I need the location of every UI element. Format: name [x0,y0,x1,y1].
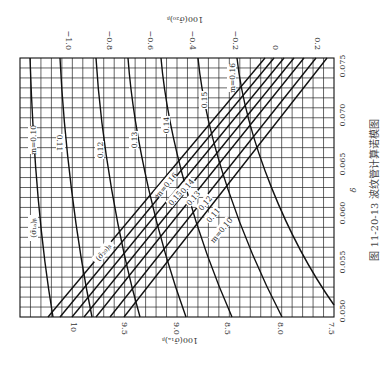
top-axis-title: 100(σ̄₂₀)ᵦ [167,15,203,24]
top-tick: 0 [271,45,280,50]
delta-tick: 0.050 [338,300,347,323]
grid [20,58,334,317]
bottom-axis-title: 100(σ̄₁ₐ)ᵦ [162,336,198,345]
curve-label: 0.15 [200,91,209,108]
bottom-tick: 8.0 [276,322,285,335]
delta-tick: 0.060 [338,202,347,225]
bottom-tick: 10 [69,322,78,332]
curve-label: m=0.16 [228,63,237,93]
delta-axis-title: δ [349,187,358,192]
bottom-tick: 7.5 [327,322,336,335]
bottom-tick: 9.5 [120,322,129,335]
delta-axis-ticks: 0.050 0.055 0.060 0.065 0.070 0.075 [338,55,347,323]
delta-tick: 0.055 [338,251,347,274]
figure-caption: 图 11-20-13 波纹管计算诺模图 [368,119,380,260]
top-tick: −0.4 [188,31,197,50]
bottom-axis-ticks: 10 9.5 9.0 8.5 8.0 7.5 [69,322,336,335]
curve-label: 0.12 [96,141,105,158]
family1-labels: m=0.10 0.11 0.12 0.13 0.14 0.15 m=0.16 (… [28,63,237,241]
curve-m016-a [237,58,334,305]
delta-tick: 0.070 [338,104,347,127]
nomogram: −1.0 −0.8 −0.6 −0.4 −0.2 0 0.2 100(σ̄₂₀)… [0,0,387,365]
bottom-tick: 8.5 [223,322,232,335]
bottom-tick: 9.0 [172,322,181,335]
top-tick: −0.6 [146,31,155,50]
top-tick: −1.0 [64,31,73,50]
family1-label: (σ̄₁ₐ)ᵦ [29,218,38,238]
top-tick: −0.2 [231,31,240,50]
delta-tick: 0.065 [338,153,347,176]
curve-label: m=0.10 [29,125,38,155]
top-tick: −0.8 [105,31,114,50]
delta-tick: 0.075 [338,55,347,78]
curve-label: 0.14 [162,116,171,133]
top-tick: 0.2 [313,37,322,50]
curve-label: 0.13 [130,131,139,148]
curve-label: 0.11 [55,135,64,152]
top-axis-ticks: −1.0 −0.8 −0.6 −0.4 −0.2 0 0.2 [64,31,322,50]
